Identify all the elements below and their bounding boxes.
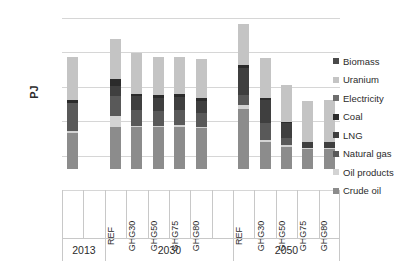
bar-segment-lng bbox=[238, 68, 249, 96]
bar-2030-ghg30 bbox=[131, 53, 142, 169]
legend-item-coal[interactable]: Coal bbox=[333, 108, 405, 127]
year-label: 2013 bbox=[72, 244, 95, 256]
bar-2050-ghg50 bbox=[281, 85, 292, 170]
scenario-cell: GHG80 bbox=[190, 190, 211, 238]
bar-2030-ghg80 bbox=[196, 59, 207, 170]
scenario-cell: GHG50 bbox=[148, 190, 169, 238]
scenario-cell bbox=[83, 190, 104, 238]
legend-swatch-icon bbox=[333, 132, 339, 138]
legend-swatch-icon bbox=[333, 95, 339, 101]
bar-segment-lng bbox=[174, 97, 185, 110]
bar-segment-oil-products bbox=[110, 116, 121, 126]
bar-segment-crude-oil bbox=[260, 142, 271, 170]
legend-item-crude-oil[interactable]: Crude oil bbox=[333, 182, 405, 201]
bar-segment-natural-gas bbox=[196, 113, 207, 127]
legend-label: Electricity bbox=[343, 93, 384, 104]
bar-segment-natural-gas bbox=[281, 138, 292, 146]
year-cell: 2030 bbox=[105, 238, 233, 261]
bar-segment-crude-oil bbox=[238, 109, 249, 170]
legend-label: Crude oil bbox=[343, 185, 381, 196]
bar-segment-uranium bbox=[196, 59, 207, 98]
scenario-cell bbox=[212, 190, 233, 238]
gridline bbox=[62, 18, 340, 19]
year-label: 2050 bbox=[275, 244, 298, 256]
bar-segment-uranium bbox=[67, 57, 78, 100]
bar-segment-crude-oil bbox=[153, 127, 164, 169]
scenario-cell: GHG30 bbox=[126, 190, 147, 238]
legend-label: Oil products bbox=[343, 167, 394, 178]
scenario-cell: REF bbox=[233, 190, 254, 238]
bar-segment-lng bbox=[110, 86, 121, 96]
bar-segment-natural-gas bbox=[67, 103, 78, 131]
bar-segment-crude-oil bbox=[174, 127, 185, 170]
scenario-cell: GHG30 bbox=[254, 190, 275, 238]
bar-segment-natural-gas bbox=[238, 95, 249, 105]
bar-segment-uranium bbox=[131, 53, 142, 94]
year-cell: 2050 bbox=[233, 238, 340, 261]
bar-segment-uranium bbox=[260, 58, 271, 98]
scenario-label-row: REFGHG30GHG50GHG75GHG80REFGHG30GHG50GHG7… bbox=[62, 190, 340, 238]
scenario-cell: GHG50 bbox=[276, 190, 297, 238]
bar-segment-crude-oil bbox=[196, 128, 207, 169]
legend-item-biomass[interactable]: Biomass bbox=[333, 52, 405, 71]
bar-segment-crude-oil bbox=[67, 133, 78, 169]
bar-segment-uranium bbox=[281, 85, 292, 122]
legend-item-uranium[interactable]: Uranium bbox=[333, 71, 405, 90]
bar-2050-ghg30 bbox=[260, 58, 271, 169]
legend-label: Natural gas bbox=[343, 148, 392, 159]
legend-swatch-icon bbox=[333, 169, 339, 175]
bar-2050-ghg75 bbox=[302, 101, 313, 170]
bar-segment-uranium bbox=[238, 24, 249, 65]
year-cell: 2013 bbox=[62, 238, 105, 261]
year-label: 2030 bbox=[158, 244, 181, 256]
bar-segment-lng bbox=[260, 100, 271, 123]
bar-2030-ghg75 bbox=[174, 57, 185, 169]
bar-segment-crude-oil bbox=[131, 127, 142, 169]
bar-segment-uranium bbox=[174, 57, 185, 94]
bar-segment-uranium bbox=[153, 57, 164, 96]
bar-2030-ghg50 bbox=[153, 57, 164, 170]
plot-area: -3,0002,0007,00012,00017,00022,000 bbox=[62, 18, 340, 190]
legend-swatch-icon bbox=[333, 151, 339, 157]
bar-segment-coal bbox=[110, 79, 121, 86]
scenario-cell: REF bbox=[105, 190, 126, 238]
bar-segment-crude-oil bbox=[110, 127, 121, 170]
legend-swatch-icon bbox=[333, 188, 339, 194]
legend-label: LNG bbox=[343, 130, 363, 141]
bar-segment-natural-gas bbox=[110, 96, 121, 117]
x-axis-label-table: REFGHG30GHG50GHG75GHG80REFGHG30GHG50GHG7… bbox=[62, 190, 340, 261]
bar-segment-lng bbox=[153, 98, 164, 111]
bar-segment-uranium bbox=[302, 101, 313, 142]
bar-segment-natural-gas bbox=[260, 123, 271, 140]
bar-segment-lng bbox=[131, 96, 142, 110]
bar-segment-crude-oil bbox=[281, 147, 292, 170]
scenario-cell: GHG75 bbox=[297, 190, 318, 238]
bar-segment-uranium bbox=[110, 39, 121, 80]
bar-segment-crude-oil bbox=[302, 149, 313, 169]
bar-2050-ref bbox=[238, 24, 249, 169]
y-axis-title: PJ bbox=[28, 72, 40, 112]
legend-item-electricity[interactable]: Electricity bbox=[333, 89, 405, 108]
legend-item-oil-products[interactable]: Oil products bbox=[333, 163, 405, 182]
chart-legend: BiomassUraniumElectricityCoalLNGNatural … bbox=[333, 52, 405, 200]
legend-item-lng[interactable]: LNG bbox=[333, 126, 405, 145]
year-label-row: 201320302050 bbox=[62, 238, 340, 261]
legend-swatch-icon bbox=[333, 114, 339, 120]
bar-2013 bbox=[67, 57, 78, 170]
legend-item-natural-gas[interactable]: Natural gas bbox=[333, 145, 405, 164]
bar-segment-lng bbox=[281, 123, 292, 137]
gridline bbox=[62, 52, 340, 53]
legend-swatch-icon bbox=[333, 77, 339, 83]
legend-label: Uranium bbox=[343, 74, 379, 85]
bar-segment-natural-gas bbox=[153, 111, 164, 126]
bar-segment-natural-gas bbox=[131, 110, 142, 126]
scenario-cell bbox=[62, 190, 83, 238]
bar-segment-lng bbox=[196, 101, 207, 113]
legend-swatch-icon bbox=[333, 58, 339, 64]
stacked-bar-chart: PJ -3,0002,0007,00012,00017,00022,000 RE… bbox=[0, 0, 405, 263]
legend-label: Biomass bbox=[343, 56, 379, 67]
bar-2030-ref bbox=[110, 39, 121, 170]
bar-segment-natural-gas bbox=[174, 110, 185, 125]
legend-label: Coal bbox=[343, 111, 363, 122]
scenario-cell: GHG75 bbox=[169, 190, 190, 238]
